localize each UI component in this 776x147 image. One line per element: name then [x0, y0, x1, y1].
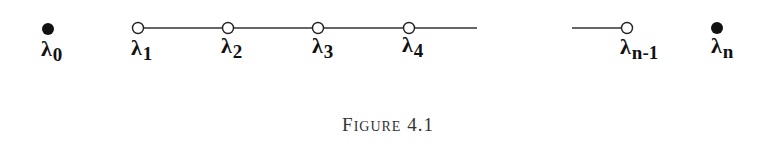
label-lambda-0: λ0 [41, 38, 62, 60]
node-lambda-3-open-circle [313, 23, 324, 34]
figure-caption: FIGURE 4.1 [0, 114, 776, 136]
chain-diagram [0, 0, 776, 110]
label-lambda-2: λ2 [221, 35, 242, 57]
label-lambda-1: λ1 [131, 37, 152, 59]
label-lambda-3: λ3 [312, 35, 333, 57]
node-lambda-0-filled-dot [42, 23, 54, 35]
node-lambda-1-open-circle [133, 23, 144, 34]
label-lambda-n: λn [711, 35, 733, 57]
label-lambda-n-1: λn-1 [620, 36, 658, 58]
node-lambda-2-open-circle [223, 23, 234, 34]
node-lambda-n-1-open-circle [622, 23, 633, 34]
label-lambda-4: λ4 [402, 34, 423, 56]
